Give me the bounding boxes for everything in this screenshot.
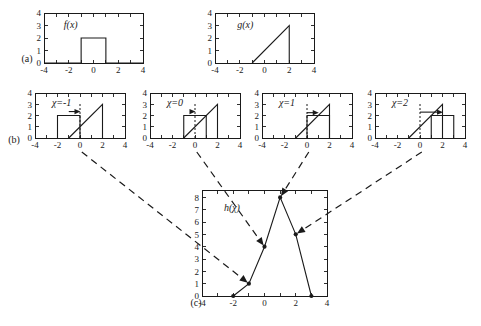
connector-chi-2-arrowhead <box>297 226 306 233</box>
plot-chi-1-shift-arrowhead <box>313 110 319 115</box>
plot-chi-0-yticklabel: 4 <box>143 88 148 98</box>
plot-gx-yticklabel: 4 <box>208 8 213 18</box>
connector-chi-1-arrowhead <box>281 188 288 197</box>
plot-chi-2-yticklabel: 3 <box>368 100 373 110</box>
plot-h-chi-xticklabel: -2 <box>230 298 238 308</box>
plot-chi-2-xticklabel: 4 <box>463 140 468 150</box>
plot-chi-2-yticklabel: 0 <box>368 133 373 143</box>
connector-chi-0-arrowhead <box>256 237 263 245</box>
plot-chi-neg1-yticklabel: 2 <box>28 111 33 121</box>
plot-gx: -4-202401234g(x) <box>208 8 317 75</box>
plot-chi-neg1-yticklabel: 3 <box>28 100 33 110</box>
plot-chi-0-xticklabel: 0 <box>193 140 198 150</box>
plot-chi-2: -4-202401234χ=2 <box>368 88 468 150</box>
plot-chi-0-label: χ=0 <box>166 97 183 108</box>
plot-chi-1: -4-202401234χ=1 <box>255 88 355 150</box>
plot-chi-1-yticklabel: 0 <box>255 133 260 143</box>
plot-gx-yticklabel: 2 <box>208 33 213 43</box>
plot-fx-yticklabel: 4 <box>37 8 42 18</box>
plot-h-chi-label: h(χ) <box>224 202 241 214</box>
plot-chi-neg1-label: χ=-1 <box>51 97 71 108</box>
plot-fx-xticklabel: 0 <box>91 65 96 75</box>
plot-chi-0-yticklabel: 0 <box>143 133 148 143</box>
plot-fx-yticklabel: 1 <box>37 46 42 56</box>
plot-h-chi-yticklabel: 3 <box>195 254 200 264</box>
plot-chi-2-xticklabel: -2 <box>394 140 402 150</box>
plot-chi-neg1-xticklabel: -4 <box>31 140 39 150</box>
plot-h-chi-frame <box>202 190 327 296</box>
plot-chi-2-series-g <box>409 104 443 138</box>
plot-chi-1-xticklabel: -4 <box>258 140 266 150</box>
plot-chi-1-label: χ=1 <box>278 97 295 108</box>
plot-chi-2-label: χ=2 <box>391 97 408 108</box>
plot-fx-series-f <box>44 38 143 63</box>
panel-group-a: -4-202401234f(x) -4-202401234g(x) <box>37 8 317 75</box>
panel-group-c: -4-2024012345678h(χ) <box>195 190 330 308</box>
plot-chi-1-yticklabel: 4 <box>255 88 260 98</box>
plot-h-chi-xticklabel: 2 <box>294 298 299 308</box>
plot-h-chi-yticklabel: 8 <box>195 193 200 203</box>
plot-h-chi-yticklabel: 6 <box>195 217 200 227</box>
plot-chi-1-xticklabel: 4 <box>350 140 355 150</box>
plot-fx: -4-202401234f(x) <box>37 8 146 75</box>
connector-chi-1 <box>285 152 309 190</box>
plot-gx-xticklabel: 0 <box>262 65 267 75</box>
plot-chi-0-xticklabel: 4 <box>238 140 243 150</box>
plot-fx-label: f(x) <box>64 19 79 31</box>
row-label-b: (b) <box>8 134 20 146</box>
plot-gx-frame <box>215 13 314 63</box>
plot-chi-2-xticklabel: 0 <box>418 140 423 150</box>
plot-chi-neg1-yticklabel: 1 <box>28 122 33 132</box>
plot-gx-xticklabel: -4 <box>211 65 219 75</box>
plot-h-chi-yticklabel: 2 <box>195 267 200 277</box>
plot-chi-neg1-series-g <box>69 104 103 138</box>
plot-chi-2-yticklabel: 1 <box>368 122 373 132</box>
plot-h-chi-datapoint <box>231 294 235 298</box>
plot-chi-1-yticklabel: 2 <box>255 111 260 121</box>
connector-chi-neg1 <box>82 152 242 278</box>
plot-h-chi-yticklabel: 1 <box>195 279 200 289</box>
plot-chi-1-yticklabel: 3 <box>255 100 260 110</box>
connector-chi-0 <box>197 152 259 239</box>
plot-fx-yticklabel: 2 <box>37 33 42 43</box>
plot-h-chi-datapoint <box>309 294 313 298</box>
plot-chi-2-xticklabel: -4 <box>371 140 379 150</box>
plot-chi-neg1: -4-202401234χ=-1 <box>28 88 128 150</box>
plot-h-chi-yticklabel: 5 <box>195 230 200 240</box>
panel-group-b: -4-202401234χ=-1 -4-202401234χ=0 -4-2024… <box>28 88 468 150</box>
plot-gx-yticklabel: 0 <box>208 58 213 68</box>
plot-h-chi-yticklabel: 7 <box>195 205 200 215</box>
figure-canvas: (a) (b) (c) -4-202401234f(x) -4-20240123… <box>0 0 481 326</box>
plot-chi-1-yticklabel: 1 <box>255 122 260 132</box>
plot-fx-xticklabel: 2 <box>116 65 121 75</box>
plot-chi-2-xticklabel: 2 <box>440 140 445 150</box>
plot-chi-0-series-g <box>184 104 218 138</box>
plot-fx-xticklabel: 4 <box>141 65 146 75</box>
plot-fx-yticklabel: 3 <box>37 21 42 31</box>
plot-h-chi-yticklabel: 4 <box>195 242 200 252</box>
plot-chi-1-xticklabel: 2 <box>327 140 332 150</box>
plot-gx-yticklabel: 3 <box>208 21 213 31</box>
plot-chi-0-xticklabel: -4 <box>146 140 154 150</box>
connector-group <box>82 152 422 283</box>
plot-h-chi-datapoint <box>247 282 251 286</box>
plot-chi-neg1-xticklabel: -2 <box>54 140 62 150</box>
plot-gx-series-g <box>252 26 289 64</box>
plot-h-chi-datapoint <box>278 195 282 199</box>
connector-chi-neg1-arrowhead <box>239 275 247 283</box>
plot-chi-neg1-yticklabel: 0 <box>28 133 33 143</box>
plot-chi-0-yticklabel: 1 <box>143 122 148 132</box>
plot-h-chi-xticklabel: -4 <box>198 298 206 308</box>
plot-chi-neg1-xticklabel: 0 <box>78 140 83 150</box>
connectors <box>82 152 422 283</box>
row-label-a: (a) <box>21 53 32 65</box>
plot-chi-2-yticklabel: 2 <box>368 111 373 121</box>
plot-chi-1-series-g <box>296 104 330 138</box>
convolution-figure: (a) (b) (c) -4-202401234f(x) -4-20240123… <box>0 0 481 326</box>
plot-chi-0-xticklabel: 2 <box>215 140 220 150</box>
plot-h-chi-datapoint <box>262 245 266 249</box>
plot-chi-0-xticklabel: -2 <box>169 140 177 150</box>
plot-chi-neg1-yticklabel: 4 <box>28 88 33 98</box>
plot-gx-label: g(x) <box>237 19 254 31</box>
plot-chi-neg1-xticklabel: 2 <box>100 140 105 150</box>
